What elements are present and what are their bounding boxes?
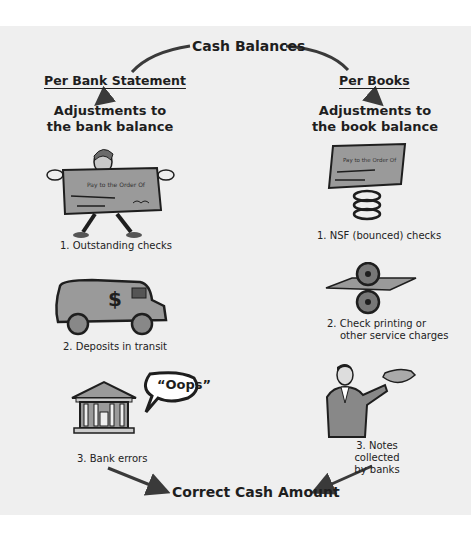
item-notes-collected: 3. Notes collected by banks bbox=[332, 440, 422, 476]
printing-rollers-icon bbox=[322, 262, 422, 318]
item-notes-collected-line2: by banks bbox=[332, 464, 422, 476]
oops-speech-bubble: “Oops” bbox=[157, 377, 211, 392]
title-cash-balances: Cash Balances bbox=[192, 38, 305, 54]
header-per-bank-statement: Per Bank Statement bbox=[44, 73, 186, 88]
item-check-printing-line1: 2. Check printing or bbox=[327, 318, 448, 330]
right-subheader: Adjustments to the book balance bbox=[300, 103, 450, 135]
svg-text:$: $ bbox=[108, 287, 122, 311]
left-subheader-line1: Adjustments to bbox=[40, 103, 180, 119]
item-notes-collected-line1: 3. Notes collected bbox=[332, 440, 422, 464]
item-outstanding-checks: 1. Outstanding checks bbox=[60, 240, 172, 252]
armored-truck-icon: $ bbox=[52, 276, 170, 336]
correct-cash-amount: Correct Cash Amount bbox=[172, 484, 340, 500]
item-deposits-in-transit: 2. Deposits in transit bbox=[63, 341, 167, 353]
item-bank-errors: 3. Bank errors bbox=[77, 453, 147, 465]
svg-text:Pay to the Order Of: Pay to the Order Of bbox=[87, 181, 146, 189]
left-subheader-line2: the bank balance bbox=[40, 119, 180, 135]
check-on-spring-icon: Pay to the Order Of bbox=[325, 140, 415, 226]
item-check-printing-line2: other service charges bbox=[327, 330, 448, 342]
header-per-books: Per Books bbox=[339, 73, 410, 88]
left-subheader: Adjustments to the bank balance bbox=[40, 103, 180, 135]
person-holding-check-icon: Pay to the Order Of bbox=[45, 140, 175, 240]
svg-text:Pay to the Order Of: Pay to the Order Of bbox=[343, 157, 397, 164]
item-nsf-checks: 1. NSF (bounced) checks bbox=[317, 230, 441, 242]
businessman-holding-money-icon bbox=[325, 363, 420, 438]
right-subheader-line2: the book balance bbox=[300, 119, 450, 135]
item-check-printing: 2. Check printing or other service charg… bbox=[327, 318, 448, 342]
right-subheader-line1: Adjustments to bbox=[300, 103, 450, 119]
